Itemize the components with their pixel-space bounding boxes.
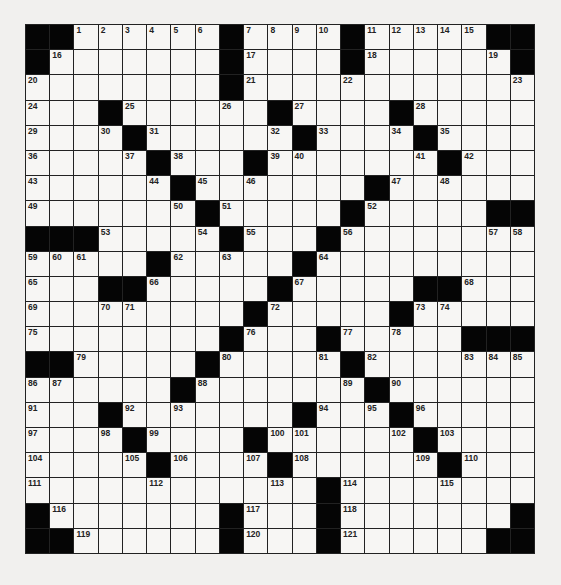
- grid-cell[interactable]: [244, 252, 267, 276]
- grid-cell[interactable]: 14: [438, 25, 461, 49]
- grid-cell[interactable]: [50, 428, 73, 452]
- grid-cell[interactable]: [414, 327, 437, 351]
- grid-cell[interactable]: 27: [293, 101, 316, 125]
- grid-cell[interactable]: 65: [26, 277, 49, 301]
- grid-cell[interactable]: [511, 126, 534, 150]
- grid-cell[interactable]: 9: [293, 25, 316, 49]
- grid-cell[interactable]: 29: [26, 126, 49, 150]
- grid-cell[interactable]: 101: [293, 428, 316, 452]
- grid-cell[interactable]: [365, 529, 388, 553]
- grid-cell[interactable]: 26: [220, 101, 243, 125]
- grid-cell[interactable]: [365, 504, 388, 528]
- grid-cell[interactable]: [147, 201, 170, 225]
- grid-cell[interactable]: [196, 151, 219, 175]
- grid-cell[interactable]: 64: [317, 252, 340, 276]
- grid-cell[interactable]: 100: [268, 428, 291, 452]
- grid-cell[interactable]: [341, 428, 364, 452]
- grid-cell[interactable]: 5: [171, 25, 194, 49]
- grid-cell[interactable]: [123, 75, 146, 99]
- grid-cell[interactable]: [147, 352, 170, 376]
- grid-cell[interactable]: [74, 277, 97, 301]
- grid-cell[interactable]: [365, 227, 388, 251]
- grid-cell[interactable]: [244, 478, 267, 502]
- grid-cell[interactable]: 99: [147, 428, 170, 452]
- grid-cell[interactable]: [414, 252, 437, 276]
- grid-cell[interactable]: [171, 352, 194, 376]
- grid-cell[interactable]: [438, 101, 461, 125]
- grid-cell[interactable]: [293, 176, 316, 200]
- grid-cell[interactable]: [147, 101, 170, 125]
- grid-cell[interactable]: 92: [123, 403, 146, 427]
- grid-cell[interactable]: [147, 227, 170, 251]
- grid-cell[interactable]: [341, 277, 364, 301]
- grid-cell[interactable]: 48: [438, 176, 461, 200]
- grid-cell[interactable]: [171, 75, 194, 99]
- grid-cell[interactable]: [171, 302, 194, 326]
- grid-cell[interactable]: [244, 403, 267, 427]
- grid-cell[interactable]: [99, 453, 122, 477]
- grid-cell[interactable]: [74, 126, 97, 150]
- grid-cell[interactable]: [438, 403, 461, 427]
- grid-cell[interactable]: [123, 227, 146, 251]
- grid-cell[interactable]: 93: [171, 403, 194, 427]
- grid-cell[interactable]: [365, 302, 388, 326]
- grid-cell[interactable]: 70: [99, 302, 122, 326]
- grid-cell[interactable]: [293, 50, 316, 74]
- grid-cell[interactable]: [317, 378, 340, 402]
- grid-cell[interactable]: [317, 302, 340, 326]
- grid-cell[interactable]: [390, 352, 413, 376]
- grid-cell[interactable]: [511, 151, 534, 175]
- grid-cell[interactable]: 108: [293, 453, 316, 477]
- grid-cell[interactable]: 105: [123, 453, 146, 477]
- grid-cell[interactable]: 25: [123, 101, 146, 125]
- grid-cell[interactable]: [171, 428, 194, 452]
- grid-cell[interactable]: [341, 151, 364, 175]
- grid-cell[interactable]: [50, 75, 73, 99]
- grid-cell[interactable]: [487, 176, 510, 200]
- grid-cell[interactable]: [220, 277, 243, 301]
- grid-cell[interactable]: 21: [244, 75, 267, 99]
- grid-cell[interactable]: [171, 277, 194, 301]
- grid-cell[interactable]: [341, 252, 364, 276]
- grid-cell[interactable]: 56: [341, 227, 364, 251]
- grid-cell[interactable]: 28: [414, 101, 437, 125]
- grid-cell[interactable]: [293, 529, 316, 553]
- grid-cell[interactable]: [268, 403, 291, 427]
- grid-cell[interactable]: [293, 75, 316, 99]
- grid-cell[interactable]: [414, 378, 437, 402]
- grid-cell[interactable]: [220, 478, 243, 502]
- grid-cell[interactable]: [365, 252, 388, 276]
- grid-cell[interactable]: 78: [390, 327, 413, 351]
- grid-cell[interactable]: [511, 453, 534, 477]
- grid-cell[interactable]: [268, 378, 291, 402]
- grid-cell[interactable]: [171, 504, 194, 528]
- grid-cell[interactable]: 89: [341, 378, 364, 402]
- grid-cell[interactable]: 115: [438, 478, 461, 502]
- grid-cell[interactable]: 19: [487, 50, 510, 74]
- grid-cell[interactable]: [438, 252, 461, 276]
- grid-cell[interactable]: 85: [511, 352, 534, 376]
- grid-cell[interactable]: 15: [462, 25, 485, 49]
- grid-cell[interactable]: 24: [26, 101, 49, 125]
- grid-cell[interactable]: [268, 50, 291, 74]
- grid-cell[interactable]: 95: [365, 403, 388, 427]
- grid-cell[interactable]: [196, 428, 219, 452]
- grid-cell[interactable]: [74, 50, 97, 74]
- grid-cell[interactable]: 41: [414, 151, 437, 175]
- grid-cell[interactable]: 76: [244, 327, 267, 351]
- grid-cell[interactable]: [171, 227, 194, 251]
- grid-cell[interactable]: 31: [147, 126, 170, 150]
- grid-cell[interactable]: [74, 453, 97, 477]
- grid-cell[interactable]: [99, 75, 122, 99]
- grid-cell[interactable]: [365, 277, 388, 301]
- grid-cell[interactable]: [487, 453, 510, 477]
- grid-cell[interactable]: 38: [171, 151, 194, 175]
- grid-cell[interactable]: [341, 453, 364, 477]
- grid-cell[interactable]: [74, 504, 97, 528]
- grid-cell[interactable]: 103: [438, 428, 461, 452]
- grid-cell[interactable]: [390, 504, 413, 528]
- grid-cell[interactable]: [244, 201, 267, 225]
- grid-cell[interactable]: [462, 252, 485, 276]
- grid-cell[interactable]: [123, 252, 146, 276]
- grid-cell[interactable]: [50, 302, 73, 326]
